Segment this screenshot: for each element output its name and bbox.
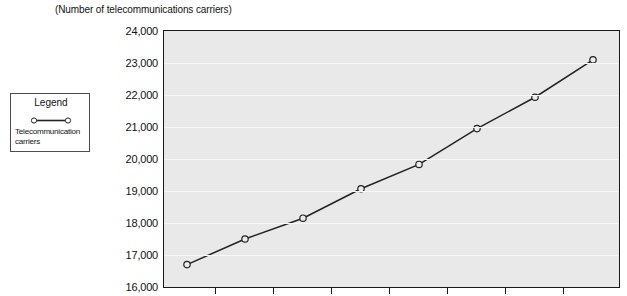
y-axis-tick-label: 20,000 — [126, 153, 158, 165]
gridline — [164, 95, 619, 96]
chart-legend: Legend Telecommunication carriers — [10, 93, 90, 152]
x-axis-tick — [563, 288, 564, 294]
x-axis-tick — [215, 288, 216, 294]
legend-item-label: Telecommunication carriers — [15, 127, 91, 146]
gridline — [164, 191, 619, 192]
data-point-marker — [184, 261, 190, 267]
y-axis-tick-label: 18,000 — [126, 217, 158, 229]
legend-title: Legend — [11, 97, 91, 108]
y-axis-tick-label: 17,000 — [126, 249, 158, 261]
data-point-marker — [300, 215, 306, 221]
plot-area — [163, 30, 620, 288]
y-axis-tick-label: 21,000 — [126, 121, 158, 133]
y-axis-tick-label: 22,000 — [126, 89, 158, 101]
gridline — [164, 223, 619, 224]
data-point-marker — [416, 161, 422, 167]
y-axis-tick-label: 16,000 — [126, 281, 158, 293]
series-line — [187, 60, 593, 265]
x-axis-tick — [389, 288, 390, 294]
y-axis-labels: 24,00023,00022,00021,00020,00019,00018,0… — [106, 0, 158, 296]
plot-inner — [164, 31, 619, 287]
legend-marker-sample — [11, 115, 91, 126]
gridline — [164, 159, 619, 160]
chart-root: (Number of telecommunications carriers) … — [0, 0, 627, 296]
y-axis-tick-label: 23,000 — [126, 57, 158, 69]
gridline — [164, 63, 619, 64]
x-axis-tick — [331, 288, 332, 294]
gridline — [164, 127, 619, 128]
gridline — [164, 255, 619, 256]
x-axis-ticks — [163, 288, 620, 296]
x-axis-tick — [505, 288, 506, 294]
x-axis-tick — [273, 288, 274, 294]
data-point-marker — [242, 236, 248, 242]
x-axis-tick — [447, 288, 448, 294]
y-axis-tick-label: 24,000 — [126, 25, 158, 37]
y-axis-tick-label: 19,000 — [126, 185, 158, 197]
